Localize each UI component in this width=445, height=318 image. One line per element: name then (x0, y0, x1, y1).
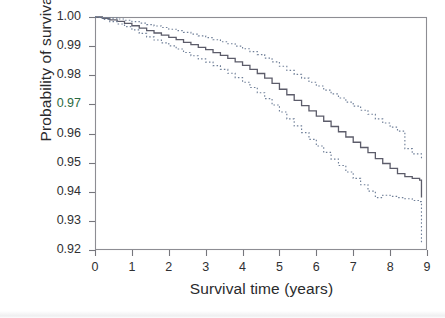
x-axis-tick-label: 7 (343, 260, 363, 274)
y-axis-tick-label: 0.99 (31, 38, 81, 52)
y-axis-tick-label: 1.00 (31, 9, 81, 23)
y-axis-tick-label: 0.97 (31, 96, 81, 110)
survival-curve-figure: Probability of survival Survival time (y… (0, 0, 445, 318)
x-axis-tick-label: 6 (306, 260, 326, 274)
x-axis-tick-label: 2 (159, 260, 179, 274)
x-axis-tick-label: 4 (233, 260, 253, 274)
plot-frame (96, 18, 427, 250)
y-axis-tick-label: 0.94 (31, 184, 81, 198)
survival-estimate-line (95, 17, 421, 198)
y-axis-tick-label: 0.98 (31, 67, 81, 81)
x-axis-tick-label: 5 (269, 260, 289, 274)
x-axis-tick-label: 0 (85, 260, 105, 274)
x-axis-title: Survival time (years) (95, 280, 428, 298)
y-axis-tick-label: 0.96 (31, 126, 81, 140)
lower-confidence-line (95, 17, 421, 244)
x-axis-tick-label: 3 (196, 260, 216, 274)
y-axis-tick-label: 0.95 (31, 155, 81, 169)
y-axis-tick-label: 0.93 (31, 213, 81, 227)
y-axis-tick-label: 0.92 (31, 242, 81, 256)
x-axis-tick-label: 9 (417, 260, 437, 274)
upper-confidence-line (95, 17, 421, 160)
x-axis-tick-label: 1 (122, 260, 142, 274)
x-axis-tick-label: 8 (380, 260, 400, 274)
